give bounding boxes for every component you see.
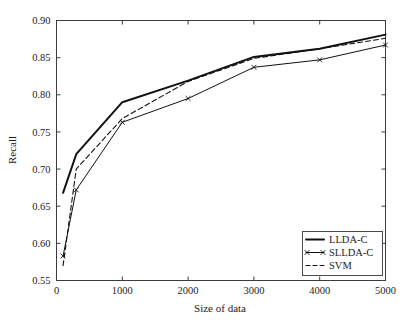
legend-label-llda-c: LLDA-C [329,234,368,245]
series-line-llda-c [63,35,385,193]
y-tick-label: 0.60 [32,238,50,249]
y-tick-label: 0.65 [32,201,50,212]
x-tick-label: 3000 [243,285,264,296]
legend-label-svm: SVM [329,260,352,271]
y-tick-label: 0.75 [32,127,50,138]
x-tick-label: 2000 [178,285,199,296]
x-tick-label: 0 [54,285,59,296]
recall-vs-size-line-chart: 0.550.600.650.700.750.800.850.90 0100020… [0,0,405,323]
chart-legend: LLDA-CSLLDA-CSVM [303,232,383,276]
y-tick-label: 0.85 [32,52,50,63]
x-axis-tick-labels: 010002000300040005000 [54,285,396,296]
series-line-sllda-c [63,45,385,256]
y-axis-tick-labels: 0.550.600.650.700.750.800.850.90 [32,15,50,286]
y-axis-title: Recall [6,136,18,164]
x-tick-label: 5000 [375,285,396,296]
y-tick-label: 0.90 [32,15,50,26]
x-axis-title: Size of data [194,302,246,314]
y-tick-label: 0.70 [32,164,50,175]
legend-label-sllda-c: SLLDA-C [329,247,373,258]
y-tick-label: 0.80 [32,89,50,100]
chart-figure: 0.550.600.650.700.750.800.850.90 0100020… [0,0,405,323]
y-tick-label: 0.55 [32,275,50,286]
series-marker-x [186,96,191,101]
x-tick-label: 1000 [112,285,133,296]
x-tick-label: 4000 [309,285,330,296]
data-series-group [61,35,388,266]
